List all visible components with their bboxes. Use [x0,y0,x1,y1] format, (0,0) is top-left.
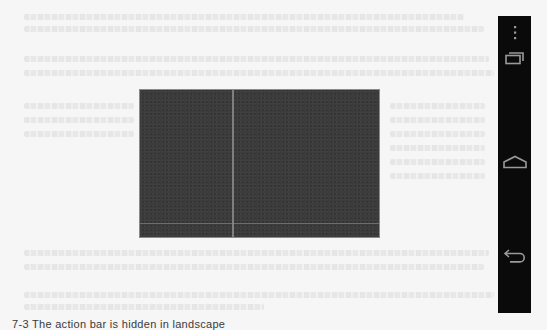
bleed-line [24,131,134,137]
vertical-ellipsis-icon [512,25,518,41]
bleed-line [24,292,494,298]
bleed-line [390,159,485,165]
bleed-line [24,264,484,270]
bleed-line [24,70,494,76]
pane-divider-vertical [232,90,234,237]
recent-apps-icon [504,50,526,66]
bleed-line [24,117,134,123]
back-button[interactable] [498,244,531,268]
back-icon [502,248,528,264]
figure-caption: 7-3 The action bar is hidden in landscap… [12,318,225,330]
bleed-line [24,14,464,20]
bleed-line [24,103,134,109]
bleed-line [24,56,489,62]
bleed-line [390,145,485,151]
bleed-line [24,304,264,310]
recent-apps-button[interactable] [498,44,531,72]
bleed-line [390,117,485,123]
bleed-line [24,26,484,32]
navigation-bar [498,16,531,313]
bleed-line [390,173,485,179]
app-content-area[interactable] [139,89,380,238]
bleed-line [24,250,489,256]
bleed-line [390,131,485,137]
home-button[interactable] [498,150,531,174]
bleed-line [390,103,485,109]
pane-divider-horizontal [140,223,379,224]
home-icon [502,155,528,169]
overflow-menu-button[interactable] [498,22,531,44]
